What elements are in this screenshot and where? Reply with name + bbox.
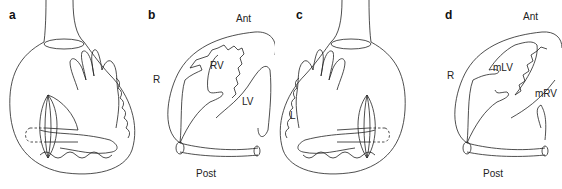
panel-c: c L bbox=[275, 0, 415, 189]
panel-d: d Ant R Post mLV mRV bbox=[415, 0, 562, 189]
hand-chest-illustration-c bbox=[275, 0, 415, 189]
hand-chest-illustration-a bbox=[0, 0, 140, 189]
heart-cross-section-d bbox=[415, 0, 562, 189]
panel-a: a bbox=[0, 0, 140, 189]
heart-cross-section-b bbox=[140, 0, 275, 189]
panel-b: b Ant R Post RV LV bbox=[140, 0, 275, 189]
